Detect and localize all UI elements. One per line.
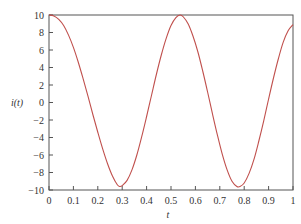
x-tick-label: 0.6 [189,195,202,206]
x-tick-label: 0.9 [262,195,275,206]
y-tick-label: 10 [34,10,44,21]
x-tick-label: 1 [291,195,296,206]
plot-border [49,15,293,190]
x-axis-ticks: 00.10.20.30.40.50.60.70.80.91 [47,186,296,206]
line-chart: 1086420−2−4−6−8−10 00.10.20.30.40.50.60.… [0,0,301,224]
y-tick-label: −10 [28,185,44,196]
x-tick-label: 0 [47,195,52,206]
x-axis-label: t [167,209,170,220]
y-tick-label: −6 [33,150,44,161]
series-line-i-t [49,15,293,187]
y-tick-label: −2 [33,115,44,126]
x-tick-label: 0.7 [214,195,227,206]
x-tick-label: 0.5 [165,195,178,206]
x-tick-label: 0.2 [92,195,105,206]
y-tick-label: 6 [39,45,44,56]
y-tick-label: −4 [33,132,44,143]
y-tick-label: 2 [39,80,44,91]
y-tick-label: −8 [33,167,44,178]
y-tick-label: 8 [39,27,44,38]
y-tick-label: 4 [39,62,44,73]
y-axis-label: i(t) [11,97,24,109]
x-tick-label: 0.4 [140,195,153,206]
y-tick-label: 0 [39,97,44,108]
x-tick-label: 0.1 [67,195,80,206]
x-tick-label: 0.8 [238,195,251,206]
x-tick-label: 0.3 [116,195,129,206]
plot-frame [49,15,293,190]
